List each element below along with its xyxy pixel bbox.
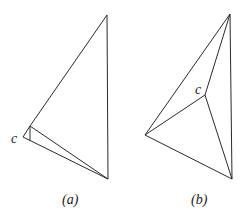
edge-a-c-bottom bbox=[23, 137, 108, 179]
edge-b-c-top bbox=[205, 14, 230, 95]
caption-b: (b) bbox=[191, 192, 208, 208]
diagram-canvas: c (a) c (b) bbox=[0, 0, 244, 214]
edge-a-top-upper bbox=[30, 15, 107, 126]
edge-b-top-bottom bbox=[230, 14, 232, 179]
edge-a-upper-bottom bbox=[30, 126, 108, 179]
edge-b-c-left bbox=[145, 95, 205, 135]
figure-a: c (a) bbox=[11, 15, 108, 208]
edge-b-c-bottom bbox=[205, 95, 232, 179]
edge-a-top-bottom bbox=[107, 15, 108, 179]
edge-a-upper-c bbox=[23, 126, 30, 137]
edge-b-left-bottom bbox=[145, 135, 232, 179]
figure-b: c (b) bbox=[145, 14, 232, 208]
label-a-c: c bbox=[11, 131, 18, 146]
edge-b-top-left bbox=[145, 14, 230, 135]
caption-a: (a) bbox=[62, 192, 79, 208]
label-b-c: c bbox=[195, 82, 202, 97]
